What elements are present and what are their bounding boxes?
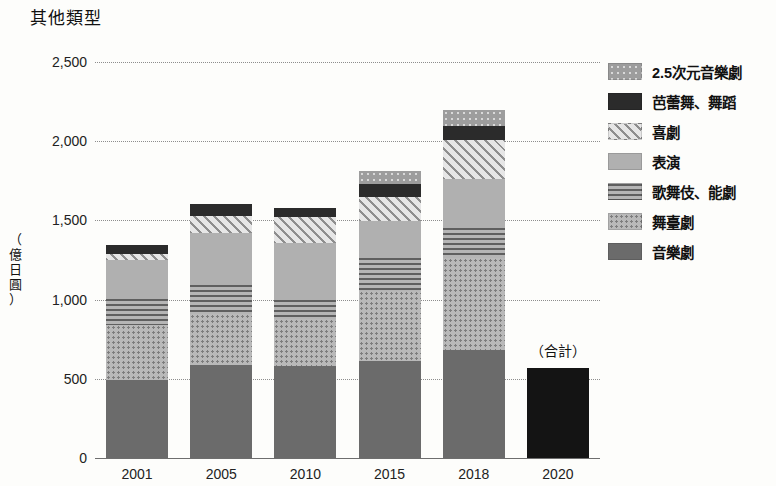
bar-segment[interactable] <box>106 245 168 254</box>
chart-legend: 2.5次元音樂劇芭蕾舞、舞蹈喜劇表演歌舞伎、能劇舞臺劇音樂劇 <box>608 58 772 268</box>
legend-item-label: 喜劇 <box>652 121 680 142</box>
x-axis-tick-label: 2018 <box>458 466 489 482</box>
x-axis-tick-label: 2015 <box>374 466 405 482</box>
bar-segment[interactable] <box>190 365 252 458</box>
y-axis-title-char: 億 <box>4 247 26 262</box>
y-axis-tick-label: 2,000 <box>7 133 87 149</box>
legend-swatch-icon <box>608 243 642 260</box>
bar-segment[interactable] <box>190 204 252 216</box>
bar-stack-2015[interactable] <box>359 62 421 458</box>
chart-root: 其他類型 （億日圓） 05001,0001,5002,0002,50020012… <box>0 0 776 486</box>
bar-segment[interactable] <box>274 366 336 458</box>
y-axis-tick-label: 1,500 <box>7 212 87 228</box>
bar-segment[interactable] <box>190 285 252 314</box>
legend-swatch-icon <box>608 153 642 170</box>
bar-segment[interactable] <box>106 260 168 299</box>
bar-segment[interactable] <box>443 228 505 258</box>
legend-item[interactable]: 芭蕾舞、舞蹈 <box>608 88 772 114</box>
y-axis-tick-label: 0 <box>7 450 87 466</box>
bar-stack-2018[interactable] <box>443 62 505 458</box>
legend-item-label: 2.5次元音樂劇 <box>652 61 742 82</box>
x-axis-tick-label: 2005 <box>206 466 237 482</box>
legend-item[interactable]: 表演 <box>608 148 772 174</box>
bar-segment[interactable] <box>274 243 336 299</box>
y-axis-title-char: 圓 <box>4 277 26 292</box>
bar-segment[interactable] <box>527 368 589 458</box>
gridline <box>95 62 600 63</box>
bar-stack-2020[interactable] <box>527 62 589 458</box>
x-axis-tick-label: 2001 <box>122 466 153 482</box>
gridline <box>95 379 600 380</box>
y-axis-tick-label: 1,000 <box>7 292 87 308</box>
bar-segment[interactable] <box>443 350 505 458</box>
bar-segment[interactable] <box>190 314 252 365</box>
bar-annotation-total: （合計） <box>530 340 586 360</box>
x-axis-tick-label: 2020 <box>542 466 573 482</box>
bar-segment[interactable] <box>274 300 336 319</box>
y-axis-title-char: （ <box>4 232 26 247</box>
y-axis-tick-label: 500 <box>7 371 87 387</box>
bar-segment[interactable] <box>190 233 252 285</box>
legend-item[interactable]: 喜劇 <box>608 118 772 144</box>
bar-segment[interactable] <box>359 291 421 361</box>
page-title: 其他類型 <box>30 4 102 29</box>
plot-area: 05001,0001,5002,0002,5002001200520102015… <box>95 62 600 458</box>
bar-segment[interactable] <box>443 110 505 127</box>
bar-segment[interactable] <box>359 184 421 197</box>
gridline <box>95 141 600 142</box>
bar-segment[interactable] <box>359 197 421 221</box>
bar-segment[interactable] <box>359 361 421 458</box>
bar-segment[interactable] <box>359 171 421 184</box>
bar-segment[interactable] <box>443 258 505 350</box>
bar-segment[interactable] <box>359 221 421 257</box>
legend-item-label: 音樂劇 <box>652 241 694 262</box>
gridline <box>95 300 600 301</box>
y-axis-tick-label: 2,500 <box>7 54 87 70</box>
x-axis-tick-label: 2010 <box>290 466 321 482</box>
legend-swatch-icon <box>608 93 642 110</box>
legend-item-label: 表演 <box>652 151 680 172</box>
bar-segment[interactable] <box>106 254 168 260</box>
bar-stack-2010[interactable] <box>274 62 336 458</box>
bar-segment[interactable] <box>106 299 168 325</box>
legend-item[interactable]: 音樂劇 <box>608 238 772 264</box>
legend-item-label: 芭蕾舞、舞蹈 <box>652 91 736 112</box>
bar-segment[interactable] <box>106 380 168 458</box>
legend-swatch-icon <box>608 183 642 200</box>
bar-segment[interactable] <box>190 216 252 233</box>
bar-segment[interactable] <box>274 208 336 218</box>
bar-stack-2001[interactable] <box>106 62 168 458</box>
bar-segment[interactable] <box>443 140 505 180</box>
gridline <box>95 220 600 221</box>
bar-segment[interactable] <box>274 319 336 367</box>
legend-item-label: 舞臺劇 <box>652 211 694 232</box>
bar-segment[interactable] <box>106 325 168 380</box>
legend-swatch-icon <box>608 213 642 230</box>
legend-item[interactable]: 舞臺劇 <box>608 208 772 234</box>
legend-item[interactable]: 歌舞伎、能劇 <box>608 178 772 204</box>
legend-item[interactable]: 2.5次元音樂劇 <box>608 58 772 84</box>
legend-item-label: 歌舞伎、能劇 <box>652 181 736 202</box>
bar-segment[interactable] <box>359 258 421 291</box>
bar-segment[interactable] <box>443 126 505 139</box>
legend-swatch-icon <box>608 123 642 140</box>
y-axis-title-char: 日 <box>4 262 26 277</box>
x-axis-line <box>95 458 600 459</box>
bar-segment[interactable] <box>443 179 505 228</box>
bar-segment[interactable] <box>274 217 336 243</box>
bar-stack-2005[interactable] <box>190 62 252 458</box>
legend-swatch-icon <box>608 63 642 80</box>
